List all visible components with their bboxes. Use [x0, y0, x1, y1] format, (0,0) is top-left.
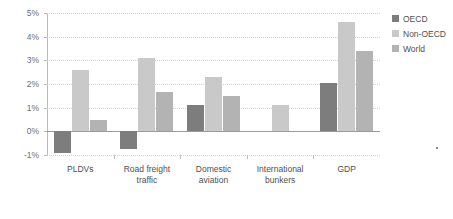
bar	[138, 58, 155, 131]
legend-swatch-icon	[392, 45, 399, 52]
y-axis-tick-label: 4%	[27, 32, 39, 42]
legend-swatch-icon	[392, 30, 399, 37]
y-axis-tick-label: 2%	[27, 79, 39, 89]
x-axis-tick-label: Road freight traffic	[114, 164, 181, 185]
bar-group	[254, 13, 307, 155]
bar	[90, 120, 107, 132]
bar	[205, 77, 222, 131]
legend-item[interactable]: World	[392, 41, 453, 56]
y-axis-tick-label: 1%	[27, 103, 39, 113]
x-axis-tick-mark	[114, 155, 115, 159]
grid-line	[47, 155, 380, 156]
y-axis-tick-label: 3%	[27, 55, 39, 65]
x-axis-tick-label: Domestic aviation	[180, 164, 247, 185]
bar-group	[320, 13, 373, 155]
bar	[272, 105, 289, 131]
plot-area	[47, 13, 380, 155]
bar-chart: 5%4%3%2%1%0%-1% PLDVsRoad freight traffi…	[0, 0, 453, 219]
x-axis-tick-mark	[180, 155, 181, 159]
bar	[356, 51, 373, 131]
legend-label: World	[403, 44, 425, 54]
x-axis-tick-label: GDP	[313, 164, 380, 175]
legend-label: Non-OECD	[403, 29, 446, 39]
stray-dot	[436, 147, 438, 149]
x-axis-tick-label: PLDVs	[47, 164, 114, 175]
y-axis-tick-label: -1%	[24, 150, 39, 160]
bar	[72, 70, 89, 132]
bar	[223, 96, 240, 132]
bar-group	[120, 13, 173, 155]
x-axis-tick-label: International bunkers	[247, 164, 314, 185]
bar	[338, 22, 355, 131]
y-axis-tick-label: 5%	[27, 8, 39, 18]
y-axis-tick-label: 0%	[27, 126, 39, 136]
legend-item[interactable]: Non-OECD	[392, 26, 453, 41]
chart-legend: OECDNon-OECDWorld	[392, 11, 453, 56]
bar-group	[54, 13, 107, 155]
legend-item[interactable]: OECD	[392, 11, 453, 26]
bar	[156, 92, 173, 131]
legend-label: OECD	[403, 14, 428, 24]
bar	[120, 131, 137, 149]
bar	[54, 131, 71, 152]
x-axis-tick-mark	[313, 155, 314, 159]
bar-group	[187, 13, 240, 155]
legend-swatch-icon	[392, 15, 399, 22]
y-axis: 5%4%3%2%1%0%-1%	[0, 13, 43, 155]
bar	[320, 83, 337, 132]
bar	[187, 105, 204, 131]
x-axis-tick-mark	[247, 155, 248, 159]
